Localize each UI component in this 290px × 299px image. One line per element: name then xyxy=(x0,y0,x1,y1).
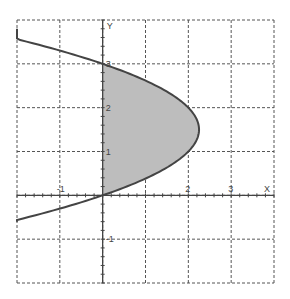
y-tick-label: 1 xyxy=(106,147,111,157)
y-tick-label: -1 xyxy=(106,234,114,244)
chart: X Y -123321-1 xyxy=(0,0,290,299)
y-axis-label: Y xyxy=(107,21,113,31)
x-tick-label: 3 xyxy=(228,184,233,194)
x-tick-label: -1 xyxy=(57,184,65,194)
y-tick-label: 2 xyxy=(106,103,111,113)
x-axis-label: X xyxy=(264,184,270,194)
y-tick-label: 3 xyxy=(106,59,111,69)
x-tick-label: 2 xyxy=(185,184,190,194)
